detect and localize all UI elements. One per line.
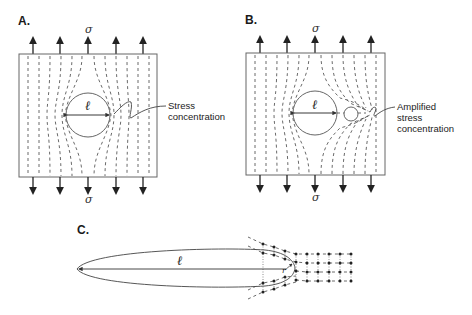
panel-a-sigma-bottom: σ xyxy=(85,193,93,206)
panel-b-label: B. xyxy=(245,13,257,27)
panel-c-crack-length: ℓ xyxy=(177,253,183,268)
panel-a-annotation-line1: Stress xyxy=(168,100,195,111)
panel-b: B. σ xyxy=(245,13,454,204)
panel-b-annotation-line2: stress xyxy=(397,112,423,123)
panel-a-label: A. xyxy=(18,14,30,28)
stress-concentration-figure: A. σ ℓ Stress concen xyxy=(0,0,472,315)
panel-a-sigma-top: σ xyxy=(85,23,93,36)
panel-c-crack-ellipse xyxy=(77,249,295,287)
panel-b-annotation-line3: concentration xyxy=(397,123,454,134)
panel-a-leader-line xyxy=(114,102,166,118)
panel-b-leader-line xyxy=(370,107,395,116)
panel-b-hole-dimension: ℓ xyxy=(312,97,318,112)
panel-c-label: C. xyxy=(77,223,89,237)
panel-b-tension-arrows-bottom xyxy=(260,175,371,189)
panel-b-tension-arrows-top xyxy=(260,39,371,53)
panel-b-small-hole xyxy=(344,107,358,121)
panel-a-annotation-line2: concentration xyxy=(168,111,225,122)
panel-c: C. ℓ r xyxy=(77,223,353,299)
panel-c-atomic-lattice xyxy=(248,237,353,299)
panel-a-hole-dimension: ℓ xyxy=(85,98,91,113)
panel-c-tip-radius: r xyxy=(282,266,287,275)
panel-c-tip-radius-arrow xyxy=(285,264,292,270)
panel-b-annotation-line1: Amplified xyxy=(397,101,436,112)
panel-b-sigma-bottom: σ xyxy=(312,191,320,204)
panel-a: A. σ ℓ Stress concen xyxy=(18,14,225,206)
panel-a-tension-arrows-bottom xyxy=(33,177,143,191)
panel-a-tension-arrows-top xyxy=(33,40,143,54)
panel-b-sigma-top: σ xyxy=(312,22,320,35)
